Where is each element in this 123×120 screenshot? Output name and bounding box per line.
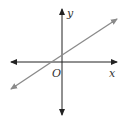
graph-line [50, 19, 117, 63]
graph-line-neg [11, 63, 50, 89]
coordinate-plane: y x O [0, 0, 123, 120]
x-axis-label: x [109, 67, 116, 80]
origin-label: O [52, 67, 61, 80]
y-axis-label: y [66, 7, 74, 20]
